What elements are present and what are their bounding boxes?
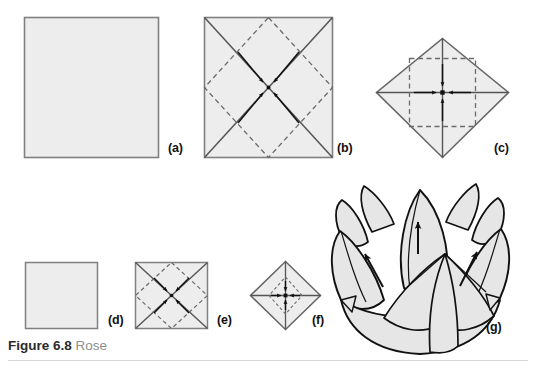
figure-caption: Figure 6.8 Rose [8, 338, 528, 362]
panel-g-rose [332, 184, 509, 354]
figure-container: (a) (b) (c) (d) (e) (f) (g) Figure 6.8 R… [0, 0, 534, 368]
caption-figure-title: Rose [76, 338, 108, 353]
center-dot-e [170, 294, 174, 298]
panel-label-c: (c) [494, 141, 509, 155]
center-dot-b [267, 86, 271, 90]
figure-artwork [0, 0, 534, 368]
caption-figure-number: Figure 6.8 [8, 338, 72, 353]
panel-e-square-creased [136, 263, 208, 329]
panel-d-square [26, 263, 98, 329]
petal-back-left [361, 186, 394, 232]
panel-a-square [25, 18, 159, 158]
panel-label-d: (d) [108, 313, 123, 327]
center-dot-f [284, 294, 288, 298]
panel-label-f: (f) [312, 313, 324, 327]
panel-label-b: (b) [337, 141, 352, 155]
petal-back-right [446, 184, 479, 230]
center-dot-c [440, 90, 444, 94]
panel-label-e: (e) [217, 313, 232, 327]
panel-label-a: (a) [168, 141, 183, 155]
panel-b-square-creased [205, 18, 333, 158]
paper-square-a [25, 18, 159, 158]
caption-line: Figure 6.8 Rose [8, 338, 107, 353]
paper-square-d [26, 263, 98, 329]
caption-divider [8, 360, 528, 361]
panel-label-g: (g) [486, 320, 501, 334]
panel-c-diamond-creased [377, 39, 509, 158]
panel-f-diamond-creased [251, 262, 321, 330]
